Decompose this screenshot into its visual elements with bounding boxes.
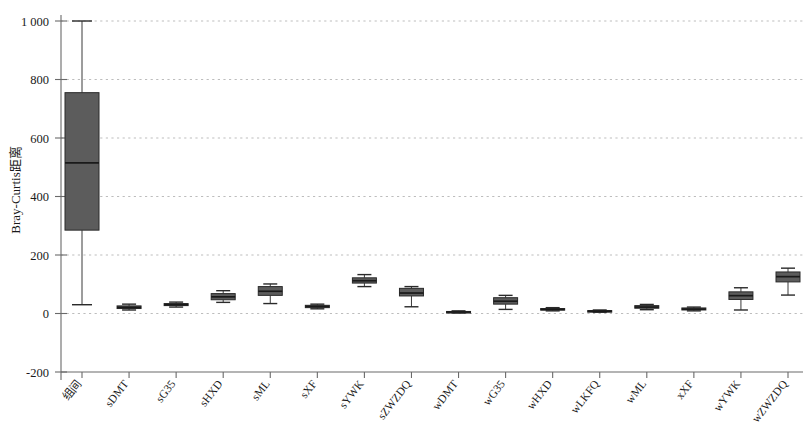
gridlines — [61, 21, 803, 314]
x-tick-label: wZWZDQ — [749, 377, 790, 424]
box-plot-item[interactable] — [494, 295, 518, 309]
x-tick-label: wLKFQ — [568, 377, 601, 415]
x-axis-ticks: 组间sDMTsG35sHXDsMLsXFsYWKsZWZDQwDMTwG35wH… — [60, 372, 790, 424]
x-tick-label: sXF — [298, 378, 319, 401]
y-axis-title-text: Bray-Curtis距离 — [8, 146, 23, 233]
y-tick-label: 0 — [43, 307, 49, 321]
box-plot-item[interactable] — [399, 287, 423, 307]
box-plot-item[interactable] — [682, 307, 706, 311]
box-plot-item[interactable] — [211, 291, 235, 303]
box-plot-item[interactable] — [117, 304, 141, 310]
x-tick-label: sHXD — [197, 378, 225, 409]
y-tick-label: 600 — [30, 132, 49, 146]
x-tick-label: wYWK — [711, 377, 743, 413]
box-plot-item[interactable] — [258, 284, 282, 304]
box-plot-item[interactable] — [65, 21, 99, 305]
box-plot-chart: -20002004006008001 000 组间sDMTsG35sHXDsML… — [0, 0, 809, 430]
y-axis-ticks: -20002004006008001 000 — [21, 15, 67, 380]
x-tick-label: sYWK — [337, 377, 367, 410]
x-tick-label: wDMT — [430, 378, 460, 412]
x-tick-label: xXF — [673, 378, 695, 402]
box-plot-series — [65, 21, 800, 313]
x-tick-label: sG35 — [153, 378, 178, 405]
box-plot-item[interactable] — [635, 304, 659, 309]
x-tick-label: sZWZDQ — [375, 377, 413, 421]
y-tick-label: 1 000 — [21, 15, 49, 29]
x-tick-label: wML — [623, 378, 648, 406]
x-tick-label: wG35 — [480, 378, 507, 408]
x-tick-label: wHXD — [524, 378, 554, 412]
box-plot-item[interactable] — [776, 268, 800, 295]
x-tick-label: sML — [249, 378, 272, 403]
x-tick-label: sDMT — [103, 378, 131, 409]
box-plot-item[interactable] — [352, 275, 376, 287]
box-plot-item[interactable] — [447, 311, 471, 313]
y-tick-label: 800 — [30, 73, 49, 87]
box-plot-item[interactable] — [164, 302, 188, 307]
box-plot-item[interactable] — [588, 310, 612, 312]
box-plot-item[interactable] — [729, 288, 753, 310]
y-tick-label: 400 — [30, 190, 49, 204]
box-plot-item[interactable] — [541, 308, 565, 311]
chart-canvas: -20002004006008001 000 组间sDMTsG35sHXDsML… — [0, 0, 809, 430]
box-body[interactable] — [399, 288, 423, 296]
y-tick-label: -200 — [26, 366, 49, 380]
x-tick-label: 组间 — [60, 377, 84, 402]
box-plot-item[interactable] — [305, 304, 329, 309]
box-body[interactable] — [65, 93, 99, 230]
y-axis-title: Bray-Curtis距离 — [8, 146, 23, 233]
y-tick-label: 200 — [30, 249, 49, 263]
axes — [61, 15, 803, 380]
